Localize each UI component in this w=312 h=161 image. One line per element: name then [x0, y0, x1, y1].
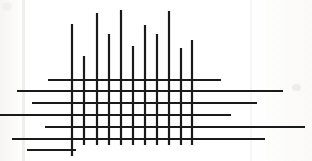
horizontal-lines-group: [0, 80, 305, 150]
artwork-canvas: [0, 0, 312, 161]
line-art-drawing: [0, 0, 312, 161]
vertical-lines-group: [72, 10, 192, 156]
